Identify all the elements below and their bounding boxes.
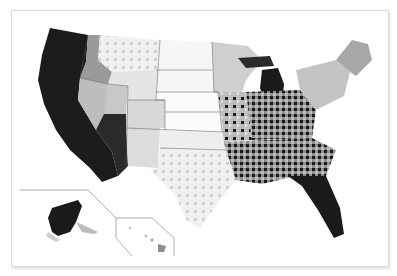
region-new-mexico xyxy=(126,128,160,168)
region-florida xyxy=(288,176,344,238)
region-montana xyxy=(98,35,160,72)
region-dakotas xyxy=(156,40,214,92)
region-alaska xyxy=(48,200,82,236)
region-texas xyxy=(150,148,236,228)
us-county-map xyxy=(0,0,397,276)
region-alaska-southeast xyxy=(76,222,98,234)
region-upper-midwest xyxy=(212,42,262,98)
region-utah xyxy=(104,84,128,114)
region-ohio-valley xyxy=(246,90,316,140)
region-colorado xyxy=(126,100,165,128)
region-hawaii xyxy=(129,227,166,252)
inset-frames xyxy=(20,190,174,256)
region-oklahoma xyxy=(160,130,226,150)
